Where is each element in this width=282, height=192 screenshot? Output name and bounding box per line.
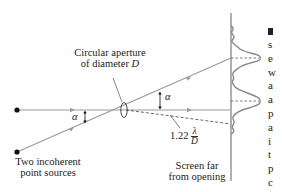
resolution-angle-label: 1.22 λ D [170,127,198,146]
aperture-label-line1: Circular aperture [64,47,156,58]
aperture-label-line2: of diameter D [64,58,156,69]
sources-label: Two incoherent point sources [4,156,92,178]
arrow-icon [158,107,161,110]
point-source-lower [14,149,19,154]
arrow-icon [69,128,74,132]
aperture-leader-line [113,78,122,102]
aperture-label: Circular aperture of diameter D [64,47,156,69]
fragment-bullet [268,28,273,35]
arrow-icon [83,111,86,114]
arrow-icon [187,108,192,112]
intensity-pattern-curve [231,26,260,134]
alpha-left-label: α [72,111,78,122]
arrow-icon [158,92,161,95]
point-source-upper [14,107,19,112]
screen-label: Screen far from opening [162,160,232,182]
dashed-diffraction-line [126,110,231,124]
lambda-over-d-fraction: λ D [191,127,198,146]
adjacent-page-text-fragments: s e w a a p a i t p c [268,38,282,190]
ray-lower-source [17,58,231,152]
alpha-right-label: α [165,91,171,102]
